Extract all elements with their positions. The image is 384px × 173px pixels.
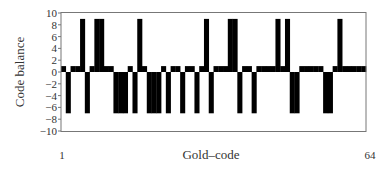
bar: [333, 66, 338, 72]
x-tick-first: 1: [59, 149, 65, 161]
bar: [209, 72, 214, 113]
bar: [204, 19, 209, 72]
bar: [218, 66, 223, 72]
bar: [309, 66, 314, 72]
bar: [280, 66, 285, 72]
bar: [137, 19, 142, 72]
bar: [61, 66, 66, 72]
bar: [109, 66, 114, 72]
bar: [166, 72, 171, 113]
x-axis-title: Gold–code: [182, 147, 239, 162]
bar: [71, 66, 76, 72]
bar: [113, 72, 118, 113]
x-tick-last: 64: [365, 149, 377, 161]
bar: [142, 66, 147, 72]
bar: [90, 66, 95, 72]
bar: [342, 66, 347, 72]
y-tick-label: −2: [45, 78, 57, 90]
y-tick-label: 2: [52, 54, 58, 66]
bar: [94, 19, 99, 72]
bar: [233, 19, 238, 72]
bar: [180, 72, 185, 113]
bar: [75, 66, 80, 72]
bar: [337, 19, 342, 72]
y-tick-label: −6: [45, 101, 57, 113]
y-axis-title: Code balance: [12, 37, 27, 108]
bar: [352, 66, 357, 72]
bar: [132, 72, 137, 113]
bar: [285, 19, 290, 72]
bar: [104, 66, 109, 72]
bar: [228, 19, 233, 72]
bar: [85, 72, 90, 113]
y-tick-label: 8: [52, 19, 58, 31]
bar: [194, 72, 199, 113]
bar: [290, 72, 295, 113]
y-tick-label: 0: [52, 66, 58, 78]
bar: [356, 66, 361, 72]
bar: [175, 66, 180, 72]
bar: [156, 72, 161, 113]
bar: [256, 66, 261, 72]
bar: [99, 19, 104, 72]
bar: [123, 72, 128, 113]
bar: [66, 72, 71, 113]
y-tick-label: 10: [46, 7, 58, 19]
bar: [118, 72, 123, 113]
bar: [199, 66, 204, 72]
bar: [247, 66, 252, 72]
bar: [266, 66, 271, 72]
bar: [304, 66, 309, 72]
y-tick-label: 4: [52, 42, 58, 54]
bar: [323, 72, 328, 113]
bar: [147, 72, 152, 113]
y-tick-label: 6: [52, 31, 58, 43]
bar: [242, 66, 247, 72]
bar: [275, 19, 280, 72]
y-tick-label: −10: [40, 125, 58, 137]
bar: [190, 66, 195, 72]
bar: [318, 66, 323, 72]
bar: [261, 66, 266, 72]
bar: [128, 66, 133, 72]
y-axis-ticks: 1086420−2−4−6−8−10: [40, 7, 61, 137]
bar: [328, 72, 333, 113]
bar: [347, 66, 352, 72]
bar: [252, 72, 257, 113]
bar: [185, 66, 190, 72]
bar: [223, 66, 228, 72]
y-tick-label: −4: [45, 90, 57, 102]
bar: [295, 72, 300, 113]
bar: [271, 66, 276, 72]
bar: [152, 72, 157, 113]
bar: [237, 72, 242, 113]
code-balance-chart: 1086420−2−4−6−8−10 1 64 Gold–code Code b…: [0, 0, 384, 173]
bars-group: [61, 19, 366, 113]
y-tick-label: −8: [45, 113, 57, 125]
bar: [80, 19, 85, 72]
bar: [214, 66, 219, 72]
bar: [314, 66, 319, 72]
bar: [299, 66, 304, 72]
bar: [171, 66, 176, 72]
bar: [161, 66, 166, 72]
